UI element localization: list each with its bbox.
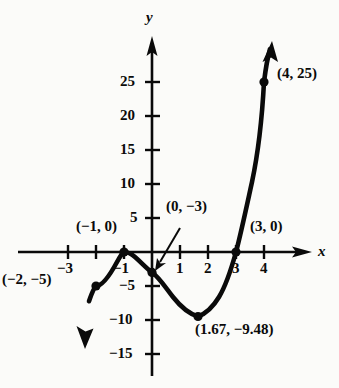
point-label-3-0: (3, 0)	[250, 219, 283, 234]
y-tick-label-5: 5	[130, 210, 138, 225]
x-axis-label: x	[318, 244, 326, 259]
x-tick-label-2: 2	[204, 261, 212, 276]
cubic-curve	[89, 49, 270, 317]
x-tick-label-minus1: −1	[113, 261, 129, 276]
y-tick-label-10: 10	[120, 176, 135, 191]
point-label-4-25: (4, 25)	[277, 66, 317, 81]
y-axis-label: y	[146, 10, 153, 25]
y-tick-label-25: 25	[120, 74, 135, 89]
y-tick-label-minus5: −5	[119, 278, 135, 293]
data-point-minus2-minus5	[91, 281, 100, 290]
cartesian-plot-canvas	[0, 0, 339, 388]
x-tick-label-4: 4	[260, 261, 268, 276]
data-point-minus1-0	[119, 247, 128, 256]
point-label-0-minus3: (0, −3)	[166, 199, 207, 214]
x-tick-label-3: 3	[232, 261, 240, 276]
y-tick-label-20: 20	[120, 108, 135, 123]
y-tick-label-minus10: −10	[109, 312, 133, 327]
x-tick-label-minus3: −3	[57, 261, 73, 276]
data-point-3-0	[231, 247, 240, 256]
curve-right-arrowhead-icon	[263, 41, 279, 62]
y-tick-label-minus15: −15	[109, 346, 133, 361]
point-label-minus1-0: (−1, 0)	[76, 219, 117, 234]
data-point-0-minus3	[147, 268, 156, 277]
point-label-1p67-minus9p48: (1.67, −9.48)	[195, 322, 274, 337]
y-tick-label-15: 15	[120, 142, 135, 157]
graph-figure: y x 25 20 15 10 5 −5 −10 −15 −3 −1 1 2 3…	[0, 0, 339, 388]
data-point-1p67-minus9p48	[193, 312, 202, 321]
point-label-minus2-minus5: (−2, −5)	[2, 272, 52, 287]
curve-left-arrowhead-icon	[77, 326, 94, 349]
x-tick-label-1: 1	[176, 261, 184, 276]
cubic-curve-group	[77, 41, 279, 349]
data-point-4-25	[259, 77, 268, 86]
